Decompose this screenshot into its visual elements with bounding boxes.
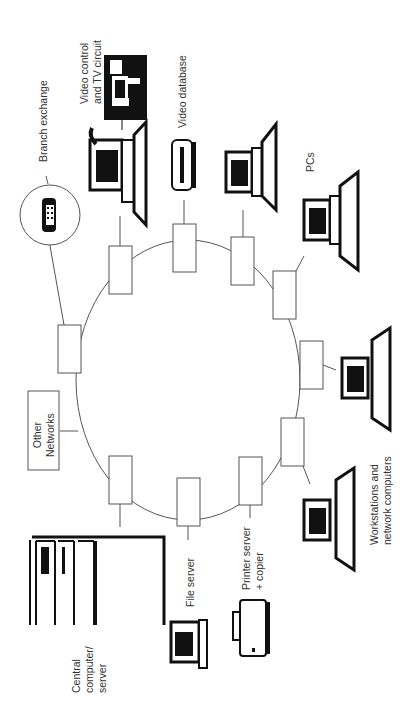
- label-pcs: PCs: [304, 152, 317, 172]
- ring-node-branch: [58, 325, 81, 373]
- label-other-networks: Other Networks: [31, 413, 57, 457]
- label-video-database: Video database: [176, 55, 189, 128]
- label-video-control: Video control and TV circuit: [78, 40, 104, 104]
- label-branch-exchange: Branch exchange: [37, 80, 50, 162]
- workstation-icon: [342, 328, 390, 430]
- label-central-computer: Central computer/ server: [70, 646, 109, 693]
- label-file-server: File server: [184, 558, 197, 607]
- ring-nodes: [58, 224, 323, 526]
- pc-icon: [171, 620, 207, 668]
- server-rack-icon: [30, 537, 164, 625]
- ring-node-pc2: [273, 271, 296, 319]
- ring-node-printer: [239, 457, 262, 505]
- video-camera-icon: [104, 55, 147, 130]
- workstation-icon: [304, 468, 354, 570]
- ring-node-video-control: [109, 246, 132, 294]
- pc-icon: [304, 172, 358, 270]
- ring-node-file-server: [177, 478, 200, 526]
- ring-node-ws1: [281, 418, 304, 466]
- ring-network-diagram: [0, 0, 414, 707]
- telephone-icon: [20, 185, 80, 245]
- label-workstations: Workstations and network computers: [368, 456, 394, 545]
- pc-icon: [90, 122, 146, 225]
- printer-icon: [233, 600, 270, 656]
- ring-node-pc3: [300, 341, 323, 389]
- video-disk-icon: [172, 140, 196, 190]
- branch-label-leader: [46, 176, 48, 184]
- ring-node-central: [109, 456, 132, 504]
- ring-node-video-db: [173, 224, 196, 272]
- pc-icon: [226, 124, 276, 210]
- ring-node-pc1: [231, 237, 254, 285]
- label-printer-server: Printer server + copier: [240, 527, 266, 590]
